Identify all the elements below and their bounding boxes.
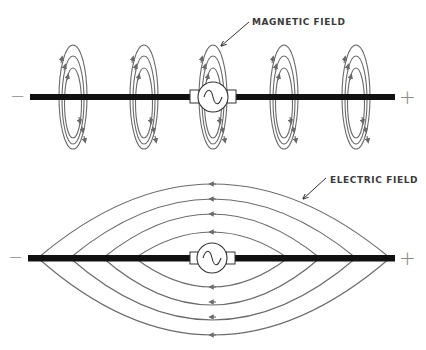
positive-terminal-top: + bbox=[399, 85, 416, 109]
electric-field-pointer bbox=[303, 178, 326, 199]
electric-field-panel bbox=[28, 178, 395, 335]
ac-generator-icon-top bbox=[190, 82, 236, 112]
ac-generator-icon-bottom bbox=[190, 243, 235, 273]
negative-terminal-top: − bbox=[10, 85, 25, 106]
electric-field-label: ELECTRIC FIELD bbox=[330, 175, 418, 185]
antenna-field-diagram: MAGNETIC FIELD ELECTRIC FIELD − + − + bbox=[0, 0, 426, 350]
magnetic-field-panel bbox=[30, 22, 395, 149]
positive-terminal-bottom: + bbox=[399, 246, 416, 270]
magnetic-field-label: MAGNETIC FIELD bbox=[252, 17, 345, 27]
magnetic-field-pointer bbox=[221, 22, 249, 46]
negative-terminal-bottom: − bbox=[8, 246, 23, 267]
